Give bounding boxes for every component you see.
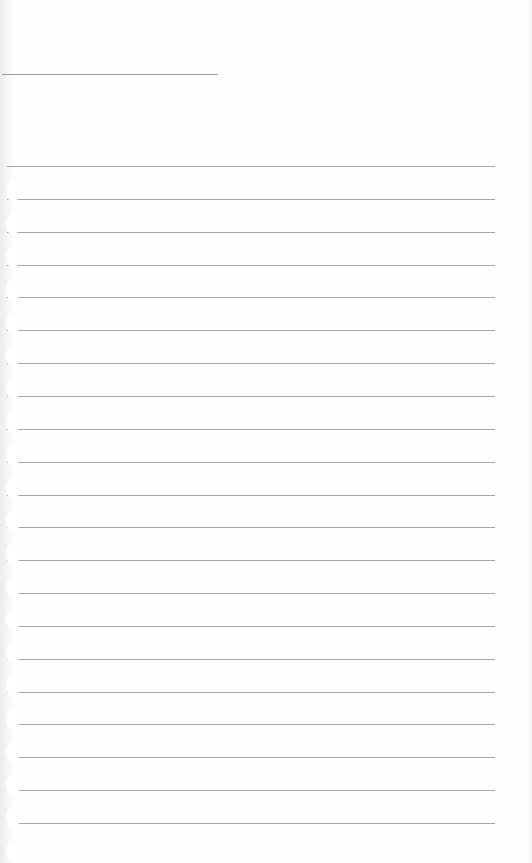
perforation-notch	[6, 840, 20, 862]
perforation-notch	[6, 807, 20, 829]
perforation-notch	[6, 543, 20, 565]
perforation-notch	[6, 345, 20, 367]
perforation-notch	[6, 378, 20, 400]
perforation-notch	[6, 774, 20, 796]
perforation-notch	[6, 246, 20, 268]
perforation-notch	[6, 312, 20, 334]
ruled-line	[7, 166, 495, 167]
ruled-line	[7, 626, 495, 627]
ruled-line	[7, 692, 495, 693]
ruled-line	[7, 724, 495, 725]
perforation-notch	[6, 609, 20, 631]
ruled-line	[7, 265, 495, 266]
perforation-notch	[6, 510, 20, 532]
perforation-notch	[6, 444, 20, 466]
perforation-notch	[6, 708, 20, 730]
ruled-line	[7, 199, 495, 200]
page-right-shadow	[526, 0, 532, 863]
ruled-line	[7, 462, 495, 463]
ruled-line	[7, 495, 495, 496]
perforation-notch	[6, 576, 20, 598]
perforation-notch	[6, 411, 20, 433]
ruled-line	[7, 593, 495, 594]
ruled-line	[7, 330, 495, 331]
ruled-line	[7, 363, 495, 364]
ruled-line	[7, 527, 495, 528]
perforation-notch	[6, 180, 20, 202]
ruled-line	[7, 790, 495, 791]
header-name-line	[2, 74, 218, 75]
perforation-notch	[6, 741, 20, 763]
ruled-line	[7, 232, 495, 233]
lined-paper-page	[0, 0, 532, 863]
perforation-notch	[6, 675, 20, 697]
perforation-notch	[6, 477, 20, 499]
perforation-notch	[6, 279, 20, 301]
ruled-line	[7, 429, 495, 430]
ruled-line	[7, 297, 495, 298]
perforation-notch	[6, 213, 20, 235]
ruled-line	[7, 560, 495, 561]
ruled-line	[7, 823, 495, 824]
perforation-notch	[6, 642, 20, 664]
ruled-line	[7, 396, 495, 397]
ruled-line	[7, 659, 495, 660]
ruled-line	[7, 757, 495, 758]
